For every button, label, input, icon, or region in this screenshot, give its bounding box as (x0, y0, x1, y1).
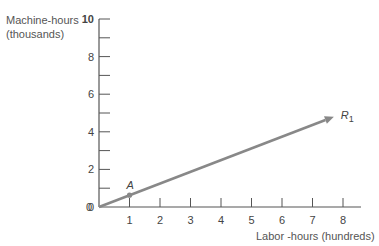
x-tick-label: 2 (157, 214, 163, 226)
series-line-r1 (99, 120, 325, 207)
x-tick-label: 7 (309, 214, 315, 226)
series-label-r1: R1 (341, 109, 354, 124)
arrowhead-icon (324, 116, 334, 123)
x-tick-label: 1 (126, 214, 132, 226)
point-a-label: A (126, 179, 134, 191)
chart: 0246810123456780 R1A Machine-hours (thou… (0, 0, 379, 246)
x-tick-label: 6 (279, 214, 285, 226)
y-axis-label: Machine-hours (6, 14, 79, 26)
x-tick-label: 8 (340, 214, 346, 226)
y-tick-label: 4 (88, 126, 94, 138)
point-a-marker (127, 193, 132, 198)
plot-area: R1A (99, 109, 354, 207)
y-tick-label: 6 (88, 88, 94, 100)
y-tick-label: 2 (88, 163, 94, 175)
origin-label: 0 (86, 201, 92, 213)
x-tick-label: 3 (187, 214, 193, 226)
x-axis-label: Labor -hours (hundreds) (256, 230, 375, 242)
axes: 0246810123456780 (82, 13, 361, 226)
y-tick-label: 8 (88, 51, 94, 63)
y-tick-label: 10 (82, 13, 94, 25)
y-axis-label-units: (thousands) (6, 28, 64, 40)
x-tick-label: 4 (218, 214, 224, 226)
series-label-subscript: 1 (349, 114, 354, 124)
x-tick-label: 5 (248, 214, 254, 226)
